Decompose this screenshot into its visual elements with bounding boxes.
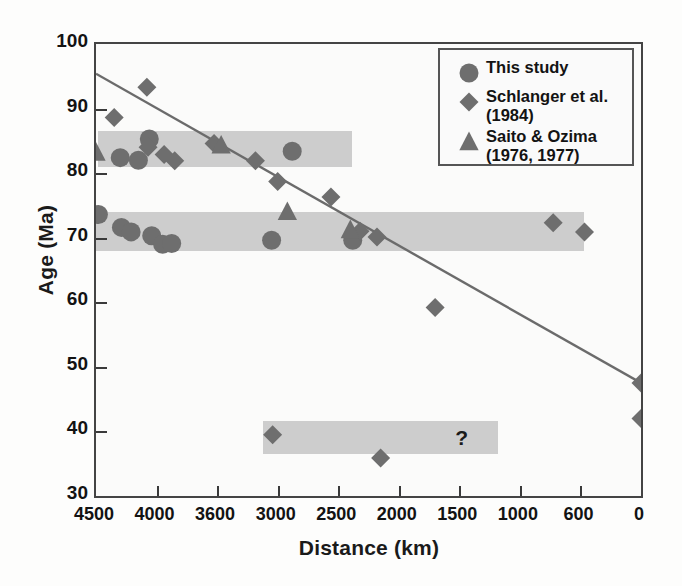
x-tick-mark	[217, 486, 219, 496]
legend-label-line: (1984)	[486, 106, 608, 125]
legend-marker-triangle-icon	[452, 127, 486, 154]
y-tick-label: 40	[42, 417, 88, 439]
series-triangle	[96, 135, 360, 238]
data-point-circle	[111, 148, 130, 167]
y-tick-mark	[96, 302, 107, 304]
data-point-diamond	[575, 222, 594, 241]
legend-item-0: This study	[440, 57, 632, 86]
x-tick-label: 0	[604, 504, 674, 525]
y-tick-mark	[96, 431, 107, 433]
data-point-diamond	[371, 448, 390, 467]
data-point-diamond	[263, 425, 282, 444]
legend-label: This study	[486, 58, 569, 77]
legend-label: Schlanger et al.(1984)	[486, 87, 608, 125]
x-tick-mark	[338, 486, 340, 496]
data-point-diamond	[632, 374, 642, 393]
legend-label-line: (1976, 1977)	[486, 146, 597, 165]
data-point-diamond	[137, 78, 156, 97]
x-tick-mark	[459, 486, 461, 496]
y-tick-label: 80	[42, 159, 88, 181]
y-tick-mark	[96, 238, 107, 240]
data-point-circle	[122, 222, 141, 241]
y-tick-label: 60	[42, 288, 88, 310]
x-axis-title: Distance (km)	[94, 536, 644, 560]
legend-label-line: Schlanger et al.	[486, 87, 608, 106]
legend-label-line: Saito & Ozima	[486, 127, 597, 146]
y-tick-mark	[96, 173, 107, 175]
x-tick-label: 600	[543, 504, 613, 525]
x-tick-label: 1500	[422, 504, 492, 525]
x-tick-label: 2000	[362, 504, 432, 525]
x-tick-label: 3000	[241, 504, 311, 525]
legend-marker-diamond-icon	[452, 87, 486, 114]
y-tick-mark	[96, 109, 107, 111]
x-tick-label: 3600	[180, 504, 250, 525]
question-mark-annotation: ?	[455, 426, 468, 450]
x-tick-label: 2500	[301, 504, 371, 525]
x-axis-tick-labels: 450040003600300025002000150010006000	[0, 504, 682, 534]
y-tick-mark	[96, 367, 107, 369]
data-point-diamond	[268, 172, 287, 191]
x-tick-mark	[520, 486, 522, 496]
chart-figure: Age (Ma) Distance (km) 10090807060504030…	[0, 0, 682, 586]
data-point-triangle	[278, 201, 297, 220]
chart-legend: This studySchlanger et al.(1984)Saito & …	[438, 48, 634, 166]
data-point-diamond	[105, 108, 124, 127]
legend-label: Saito & Ozima(1976, 1977)	[486, 127, 597, 165]
data-point-diamond	[426, 298, 445, 317]
x-tick-mark	[278, 486, 280, 496]
y-axis-tick-labels: 10090807060504030	[30, 0, 88, 586]
x-tick-mark	[399, 486, 401, 496]
x-tick-mark	[157, 486, 159, 496]
data-point-circle	[162, 234, 181, 253]
data-point-circle	[283, 142, 302, 161]
data-point-circle	[96, 205, 108, 224]
data-point-triangle	[96, 142, 106, 161]
data-point-diamond	[544, 213, 563, 232]
x-tick-mark	[580, 486, 582, 496]
y-tick-label: 100	[42, 30, 88, 52]
y-tick-label: 30	[42, 482, 88, 504]
x-tick-label: 4000	[120, 504, 190, 525]
y-tick-label: 90	[42, 95, 88, 117]
y-tick-label: 70	[42, 224, 88, 246]
legend-item-1: Schlanger et al.(1984)	[440, 86, 632, 126]
y-tick-label: 50	[42, 353, 88, 375]
data-point-circle	[262, 231, 281, 250]
x-tick-label: 1000	[483, 504, 553, 525]
x-tick-label: 4500	[59, 504, 129, 525]
data-point-diamond	[632, 409, 642, 428]
legend-label-line: This study	[486, 58, 569, 77]
legend-marker-circle-icon	[452, 58, 486, 85]
legend-item-2: Saito & Ozima(1976, 1977)	[440, 126, 632, 166]
